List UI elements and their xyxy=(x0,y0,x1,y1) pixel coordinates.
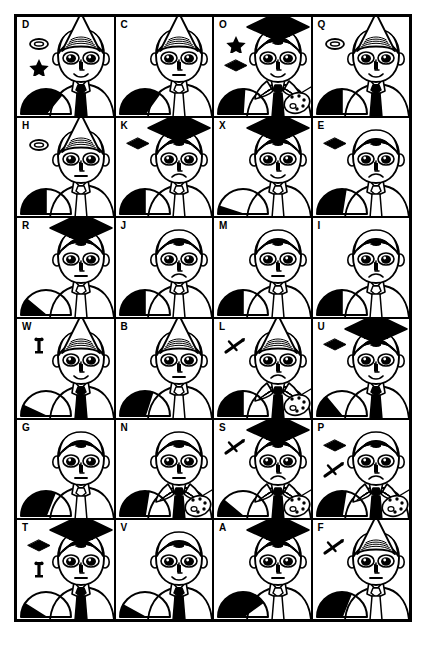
cell-label: T xyxy=(22,523,28,533)
cell-dome xyxy=(119,289,171,316)
cell-label: E xyxy=(318,121,325,131)
cell-label: N xyxy=(121,423,128,433)
dome-gauge xyxy=(217,289,269,316)
necktie xyxy=(272,85,284,116)
dome-gauge xyxy=(119,289,171,316)
necktie xyxy=(173,186,185,217)
grid-cell-h[interactable]: H xyxy=(17,118,114,217)
grid-cell-k[interactable]: K xyxy=(116,118,213,217)
grid-cell-d[interactable]: D xyxy=(17,17,114,116)
grid-cell-r[interactable]: R xyxy=(17,218,114,317)
dome-gauge xyxy=(20,188,72,215)
grid-cell-l[interactable]: L xyxy=(214,319,311,418)
mortarboard-hat xyxy=(148,118,210,142)
mortarboard-hat xyxy=(247,420,309,444)
grid-cell-n[interactable]: N xyxy=(116,420,213,519)
cell-label: S xyxy=(219,423,226,433)
necktie xyxy=(75,286,87,317)
dome-gauge xyxy=(316,289,368,316)
cell-label: V xyxy=(121,523,128,533)
cell-label: O xyxy=(219,20,227,30)
cell-dome xyxy=(217,289,269,316)
mortarboard-hat xyxy=(247,17,309,41)
grid-cell-f[interactable]: F xyxy=(313,520,410,619)
cell-dome xyxy=(316,390,368,417)
cell-dome xyxy=(20,591,72,618)
cell-label: D xyxy=(22,20,29,30)
grid-cell-t[interactable]: T xyxy=(17,520,114,619)
necktie xyxy=(272,286,284,317)
cell-dome xyxy=(316,289,368,316)
cell-dome xyxy=(119,490,171,517)
necktie xyxy=(370,488,382,519)
grid-cell-j[interactable]: J xyxy=(116,218,213,317)
cell-label: W xyxy=(22,322,31,332)
cell-label: H xyxy=(22,121,29,131)
grid-cell-v[interactable]: V xyxy=(116,520,213,619)
necktie xyxy=(272,588,284,619)
grid-cell-q[interactable]: Q xyxy=(313,17,410,116)
necktie xyxy=(370,387,382,418)
cell-label: G xyxy=(22,423,30,433)
character-grid-sheet: DCOQHKXERJMIWBLUGNSPTVAF xyxy=(0,0,428,645)
cell-label: K xyxy=(121,121,128,131)
grid-cell-b[interactable]: B xyxy=(116,319,213,418)
necktie xyxy=(75,488,87,519)
cell-dome xyxy=(316,88,368,115)
grid-cell-m[interactable]: M xyxy=(214,218,311,317)
necktie xyxy=(75,85,87,116)
dome-gauge xyxy=(20,88,72,115)
grid-cell-x[interactable]: X xyxy=(214,118,311,217)
grid-cell-c[interactable]: C xyxy=(116,17,213,116)
grid-cell-a[interactable]: A xyxy=(214,520,311,619)
cell-label: F xyxy=(318,523,324,533)
grid-cell-o[interactable]: O xyxy=(214,17,311,116)
dome-gauge xyxy=(20,591,72,618)
necktie xyxy=(370,186,382,217)
necktie xyxy=(173,488,185,519)
cell-label: I xyxy=(318,221,321,231)
cell-label: R xyxy=(22,221,29,231)
mortarboard-hat xyxy=(247,520,309,544)
grid-cell-g[interactable]: G xyxy=(17,420,114,519)
grid-cell-w[interactable]: W xyxy=(17,319,114,418)
mortarboard-hat xyxy=(345,319,407,343)
cell-label: U xyxy=(318,322,325,332)
necktie xyxy=(272,387,284,418)
cell-label: M xyxy=(219,221,227,231)
necktie xyxy=(173,286,185,317)
dome-gauge xyxy=(316,390,368,417)
cell-dome xyxy=(217,591,269,618)
dome-gauge xyxy=(316,188,368,215)
necktie xyxy=(272,186,284,217)
cell-label: C xyxy=(121,20,128,30)
cell-dome xyxy=(217,188,269,215)
dome-gauge xyxy=(119,490,171,517)
cell-dome xyxy=(316,188,368,215)
grid-cell-s[interactable]: S xyxy=(214,420,311,519)
cell-dome xyxy=(316,591,368,618)
character-grid: DCOQHKXERJMIWBLUGNSPTVAF xyxy=(14,14,412,622)
dome-gauge xyxy=(119,88,171,115)
grid-cell-i[interactable]: I xyxy=(313,218,410,317)
grid-cell-p[interactable]: P xyxy=(313,420,410,519)
dome-gauge xyxy=(316,88,368,115)
cell-label: Q xyxy=(318,20,326,30)
dome-gauge xyxy=(20,490,72,517)
dome-gauge xyxy=(217,188,269,215)
cell-dome xyxy=(119,591,171,618)
cell-dome xyxy=(217,88,269,115)
dome-gauge xyxy=(217,390,269,417)
necktie xyxy=(173,387,185,418)
cell-dome xyxy=(20,88,72,115)
necktie xyxy=(370,286,382,317)
necktie xyxy=(272,488,284,519)
cell-label: L xyxy=(219,322,225,332)
dome-gauge xyxy=(119,390,171,417)
cell-label: P xyxy=(318,423,325,433)
grid-cell-u[interactable]: U xyxy=(313,319,410,418)
mortarboard-hat xyxy=(247,118,309,142)
grid-cell-e[interactable]: E xyxy=(313,118,410,217)
cell-dome xyxy=(20,390,72,417)
dome-gauge xyxy=(316,591,368,618)
